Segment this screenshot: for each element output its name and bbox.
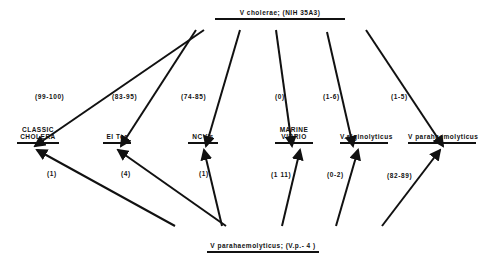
target-node-el-tor: El Tor	[103, 133, 131, 144]
pct-bottom-marine: (1 11)	[271, 171, 291, 178]
target-node-v-parahaemolyticus: V parahaemolyticus	[408, 133, 476, 144]
target-label: V.alginolyticus	[340, 133, 388, 140]
pct-top-parahaemolyticus: (1-5)	[391, 93, 408, 100]
target-label: NCV's	[188, 133, 218, 140]
arrow-top-ncv	[206, 30, 240, 146]
target-label-line1: MARINE	[275, 126, 313, 133]
target-label: El Tor	[103, 133, 131, 140]
arrow-bottom-ncv	[204, 150, 222, 226]
target-node-v-alginolyticus: V.alginolyticus	[340, 133, 388, 144]
arrows-layer	[0, 0, 486, 258]
pct-top-classic: (99-100)	[35, 93, 64, 100]
target-label: V parahaemolyticus	[408, 133, 476, 140]
source-label: V cholerae; (NIH 35A3)	[240, 9, 321, 16]
arrow-bottom-classic	[37, 150, 175, 226]
pct-top-marine: (0)	[275, 93, 285, 100]
arrow-bottom-eltor	[118, 150, 226, 226]
arrow-top-parahaemolyticus	[366, 30, 443, 146]
source-label: V parahaemolyticus; (V.p.- 4 )	[210, 242, 315, 249]
source-node-v-cholerae: V cholerae; (NIH 35A3)	[215, 9, 345, 20]
target-node-classic-cholera: CLASSIC CHOLERA	[17, 126, 59, 144]
pct-bottom-eltor: (4)	[121, 170, 131, 177]
pct-top-alginolyticus: (1-6)	[323, 93, 340, 100]
pct-bottom-ncv: (1)	[199, 170, 209, 177]
target-node-ncvs: NCV's	[188, 133, 218, 144]
arrow-top-classic	[35, 30, 204, 146]
pct-top-ncv: (74-85)	[181, 93, 206, 100]
target-node-marine-vibrio: MARINE VIBRIO	[275, 126, 313, 144]
pct-bottom-parahaemolyticus: (82-89)	[387, 172, 412, 179]
arrow-top-alginolyticus	[327, 32, 353, 146]
pct-bottom-alginolyticus: (0-2)	[327, 171, 344, 178]
pct-bottom-classic: (1)	[47, 170, 57, 177]
arrow-top-eltor	[121, 30, 196, 146]
source-node-v-parahaemolyticus: V parahaemolyticus; (V.p.- 4 )	[207, 242, 319, 253]
target-label-line2: VIBRIO	[275, 133, 313, 140]
target-label-line1: CLASSIC	[17, 126, 59, 133]
target-label-line2: CHOLERA	[17, 133, 59, 140]
arrow-bottom-alginolyticus	[336, 150, 358, 226]
pct-top-eltor: (83-95)	[112, 93, 137, 100]
arrow-bottom-parahaemolyticus	[382, 150, 440, 226]
arrow-bottom-marine	[282, 150, 300, 226]
